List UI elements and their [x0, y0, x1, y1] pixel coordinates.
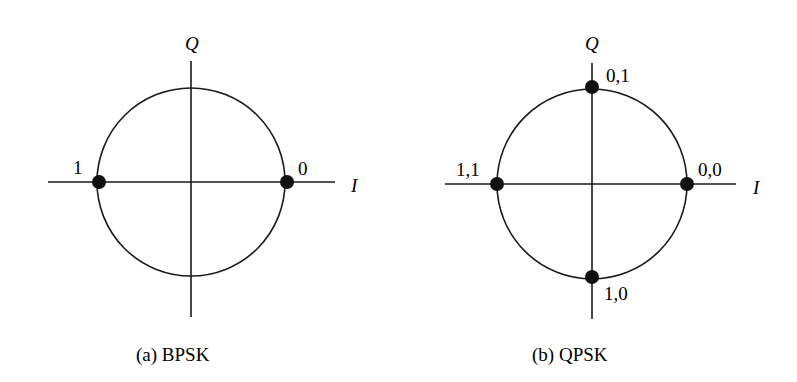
- bpsk-point-1-label: 1: [73, 158, 83, 177]
- qpsk-point-00: [680, 177, 694, 191]
- bpsk-point-0: [280, 175, 294, 189]
- bpsk-diagram: [48, 61, 335, 317]
- qpsk-point-10: [585, 270, 599, 284]
- bpsk-caption: (a) BPSK: [136, 345, 209, 364]
- qpsk-point-01-label: 0,1: [606, 66, 630, 85]
- constellation-diagrams: [0, 0, 797, 382]
- qpsk-caption: (b) QPSK: [532, 345, 607, 364]
- qpsk-point-10-label: 1,0: [604, 284, 628, 303]
- qpsk-point-11-label: 1,1: [456, 160, 480, 179]
- qpsk-point-11: [490, 177, 504, 191]
- qpsk-i-axis-label: I: [753, 178, 759, 197]
- bpsk-i-axis-label: I: [351, 176, 357, 195]
- qpsk-q-axis-label: Q: [585, 34, 599, 53]
- bpsk-point-1: [92, 175, 106, 189]
- qpsk-point-01: [585, 80, 599, 94]
- bpsk-point-0-label: 0: [298, 159, 308, 178]
- qpsk-point-00-label: 0,0: [698, 160, 722, 179]
- bpsk-q-axis-label: Q: [185, 34, 199, 53]
